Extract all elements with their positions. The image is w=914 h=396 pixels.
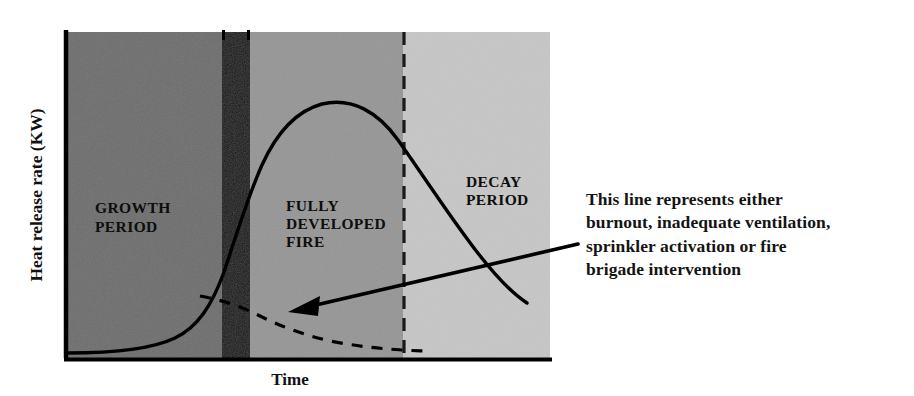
zone-label-growth-line2: PERIOD [95,218,158,235]
zone-label-fully-line3: FIRE [286,233,325,250]
zone-label-decay-line2: PERIOD [466,191,529,208]
zone-band-fully-developed [250,32,403,358]
annotation-note: This line represents either burnout, ina… [586,188,896,282]
y-axis-label: Heat release rate (KW) [26,108,46,281]
fire-development-chart: GROWTH PERIOD FULLY DEVELOPED FIRE DECAY… [0,0,914,396]
annotation-line-2: burnout, inadequate ventilation, [586,211,896,234]
zone-band-growth [64,32,222,358]
annotation-line-4: brigade intervention [586,258,896,281]
zone-label-fully-line1: FULLY [286,197,339,214]
zone-label-decay-line1: DECAY [466,173,522,190]
zone-label-fully-line2: DEVELOPED [286,215,386,232]
x-axis-label: Time [271,370,309,389]
zone-label-growth-line1: GROWTH [95,199,171,216]
annotation-line-3: sprinkler activation or fire [586,235,896,258]
annotation-line-1: This line represents either [586,188,896,211]
